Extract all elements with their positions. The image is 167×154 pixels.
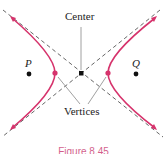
vertex-leader-right — [88, 77, 106, 104]
focus-p-dot — [27, 72, 32, 77]
focus-p-label: P — [25, 57, 32, 69]
focus-q-label: Q — [132, 57, 140, 69]
vertex-right-dot — [105, 70, 110, 75]
vertices-label: Vertices — [64, 105, 99, 117]
center-label: Center — [65, 10, 94, 22]
vertex-left-dot — [52, 70, 57, 75]
center-dot — [79, 71, 84, 76]
hyperbola-diagram — [0, 0, 167, 154]
figure-caption: Figure 8.45 — [0, 146, 167, 154]
focus-q-dot — [134, 72, 139, 77]
vertex-leader-left — [58, 77, 80, 104]
